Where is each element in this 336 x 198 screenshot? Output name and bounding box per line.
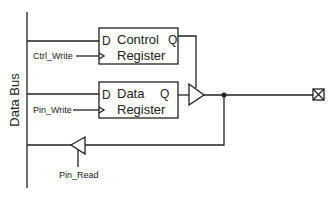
- data-register-title: Data: [117, 86, 145, 101]
- data-q-label: Q: [160, 87, 169, 101]
- control-register-subtitle: Register: [117, 48, 166, 63]
- data-register-subtitle: Register: [117, 102, 166, 117]
- control-q-wire: [178, 36, 196, 88]
- data-bus-label: Data Bus: [7, 73, 22, 127]
- control-q-label: Q: [168, 33, 177, 47]
- control-d-label: D: [102, 34, 111, 48]
- pin-read-label: Pin_Read: [59, 170, 99, 180]
- control-register-title: Control: [117, 32, 159, 47]
- data-d-label: D: [102, 88, 111, 102]
- junction-dot: [222, 93, 227, 98]
- gpio-pin-diagram: Data Bus D Control Q Register Ctrl_Write…: [0, 0, 336, 198]
- data-clock-icon: [99, 107, 104, 113]
- pin-write-label: Pin_Write: [33, 105, 72, 115]
- ctrl-write-label: Ctrl_Write: [33, 51, 73, 61]
- control-clock-icon: [99, 53, 104, 59]
